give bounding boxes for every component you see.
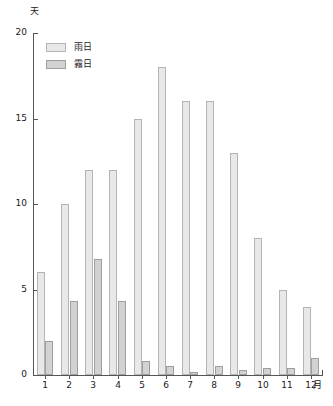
y-tick-0 <box>33 375 38 376</box>
bar-rain-month-2 <box>61 204 69 375</box>
bar-fog-month-11 <box>287 368 295 375</box>
bar-fog-month-2 <box>70 301 78 375</box>
bar-fog-month-5 <box>142 361 150 375</box>
bar-rain-month-1 <box>37 272 45 375</box>
x-tick-7 <box>190 375 191 379</box>
y-tick-label-10: 10 <box>0 199 27 208</box>
x-tick-label-12: 12 <box>301 381 321 390</box>
x-tick-4 <box>118 375 119 379</box>
bar-rain-month-10 <box>254 238 262 375</box>
bar-fog-month-6 <box>166 366 174 375</box>
bar-rain-month-12 <box>303 307 311 375</box>
x-tick-label-3: 3 <box>83 381 103 390</box>
bar-rain-month-5 <box>134 119 142 376</box>
y-tick-label-0: 0 <box>0 370 27 379</box>
x-tick-label-4: 4 <box>108 381 128 390</box>
x-tick-1 <box>45 375 46 379</box>
bar-fog-month-8 <box>215 366 223 375</box>
x-tick-5 <box>142 375 143 379</box>
chart-legend: 雨日 霧日 <box>46 40 92 74</box>
x-tick-label-8: 8 <box>204 381 224 390</box>
bar-fog-month-10 <box>263 368 271 375</box>
bar-rain-month-11 <box>279 290 287 376</box>
bar-rain-month-8 <box>206 101 214 375</box>
legend-swatch-fog-icon <box>46 60 66 69</box>
x-tick-6 <box>166 375 167 379</box>
x-tick-11 <box>287 375 288 379</box>
legend-label-rain: 雨日 <box>74 43 92 52</box>
bar-fog-month-3 <box>94 259 102 375</box>
x-tick-8 <box>214 375 215 379</box>
y-tick-label-15: 15 <box>0 114 27 123</box>
x-tick-label-10: 10 <box>253 381 273 390</box>
x-tick-label-6: 6 <box>156 381 176 390</box>
bar-rain-month-7 <box>182 101 190 375</box>
legend-item-fog: 霧日 <box>46 57 92 71</box>
x-tick-12 <box>311 375 312 379</box>
bar-rain-month-4 <box>109 170 117 375</box>
bar-rain-month-6 <box>158 67 166 375</box>
bar-fog-month-12 <box>311 358 319 375</box>
bar-fog-month-7 <box>190 372 198 375</box>
bar-rain-month-9 <box>230 153 238 375</box>
x-tick-label-5: 5 <box>132 381 152 390</box>
x-tick-label-7: 7 <box>180 381 200 390</box>
x-tick-label-1: 1 <box>35 381 55 390</box>
x-tick-label-11: 11 <box>277 381 297 390</box>
bar-fog-month-1 <box>45 341 53 375</box>
x-axis-line <box>33 375 323 376</box>
legend-item-rain: 雨日 <box>46 40 92 54</box>
legend-swatch-rain-icon <box>46 43 66 52</box>
bar-fog-month-9 <box>239 370 247 375</box>
y-axis-unit-label: 天 <box>30 7 39 16</box>
x-tick-2 <box>69 375 70 379</box>
bar-rain-month-3 <box>85 170 93 375</box>
y-tick-label-5: 5 <box>0 285 27 294</box>
x-tick-label-2: 2 <box>59 381 79 390</box>
weather-bar-chart: 天 月 05101520 123456789101112 雨日 霧日 <box>0 0 333 406</box>
plot-area <box>33 33 323 375</box>
x-tick-label-9: 9 <box>228 381 248 390</box>
bar-fog-month-4 <box>118 301 126 375</box>
x-tick-10 <box>263 375 264 379</box>
legend-label-fog: 霧日 <box>74 60 92 69</box>
x-tick-9 <box>238 375 239 379</box>
x-tick-3 <box>93 375 94 379</box>
y-tick-label-20: 20 <box>0 28 27 37</box>
